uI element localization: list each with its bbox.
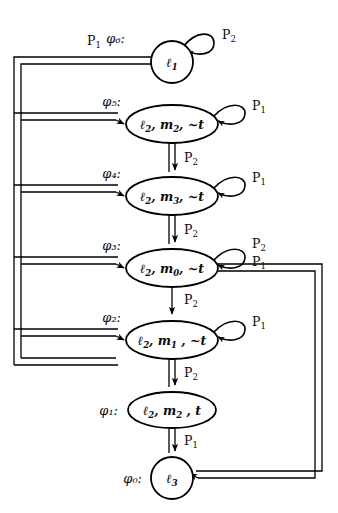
self-loop-label-phi5: P1 (252, 98, 266, 115)
edge-label-right-p1: P1 (252, 254, 266, 271)
phi-label-phi1: φ₁: (99, 403, 118, 418)
self-loop-phi4 (214, 177, 245, 196)
edge-label-phi1-phi0: P1 (184, 433, 198, 450)
self-loop-phi2 (214, 321, 245, 340)
phi-label-phi3: φ₃: (102, 238, 121, 253)
phi-label-phi2: φ₂: (102, 310, 121, 325)
right-return-bus (190, 264, 322, 478)
self-loop-label-phi4: P1 (252, 170, 266, 187)
edge-label-phi4-phi3: P2 (184, 222, 198, 239)
phi-label-phi5: φ₅: (102, 94, 121, 109)
edge-label-phi2-phi1: P2 (184, 365, 198, 382)
phi-label-phi4: φ₄: (102, 166, 121, 181)
self-loop-phi5 (214, 105, 245, 124)
edge-label-top-p1: P1 (87, 33, 101, 50)
phi-label-phi0: φ₀: (123, 471, 142, 486)
edge-label-phi5-phi4: P2 (184, 150, 198, 167)
left-return-bus (14, 57, 152, 365)
self-loop-phi3 (214, 249, 245, 268)
phi-label-phi6: φ₆: (106, 31, 125, 46)
edge-label-phi3-phi2: P2 (184, 292, 198, 309)
self-loop-label-phi3: P2 (252, 236, 266, 253)
self-loop-label-phi2: P1 (252, 314, 266, 331)
state-phi6[interactable] (151, 34, 214, 83)
self-loop-label-phi6: P2 (222, 27, 236, 44)
state-diagram-svg: ℓ1 ℓ2, m2, ~t ℓ2, m3, ~t ℓ2, m0, ~t ℓ2, … (0, 0, 338, 513)
figure-canvas: ℓ1 ℓ2, m2, ~t ℓ2, m3, ~t ℓ2, m0, ~t ℓ2, … (0, 0, 338, 513)
